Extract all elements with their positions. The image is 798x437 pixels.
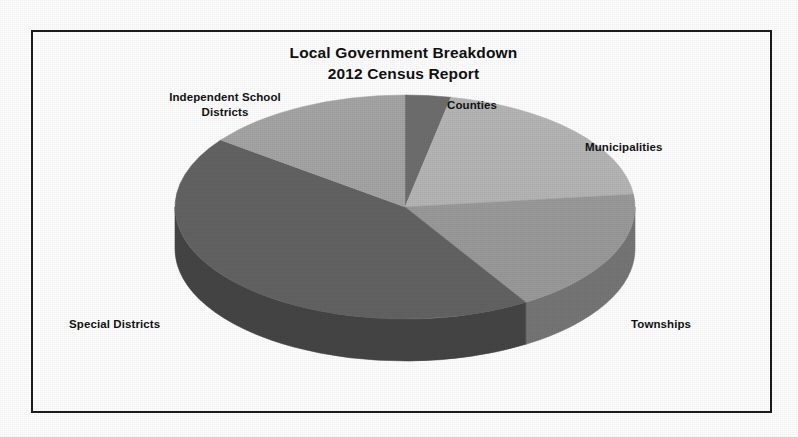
pie-label-special-districts: Special Districts xyxy=(69,317,239,332)
pie-label-independent-school-districts: Independent School Districts xyxy=(141,90,309,119)
scanned-page: Local Government Breakdown 2012 Census R… xyxy=(0,0,798,437)
pie-label-townships: Townships xyxy=(631,317,771,332)
pie-label-counties: Counties xyxy=(412,98,532,113)
chart-frame: Local Government Breakdown 2012 Census R… xyxy=(31,30,772,413)
pie-top-faces xyxy=(175,95,635,319)
pie-label-municipalities: Municipalities xyxy=(585,140,735,155)
